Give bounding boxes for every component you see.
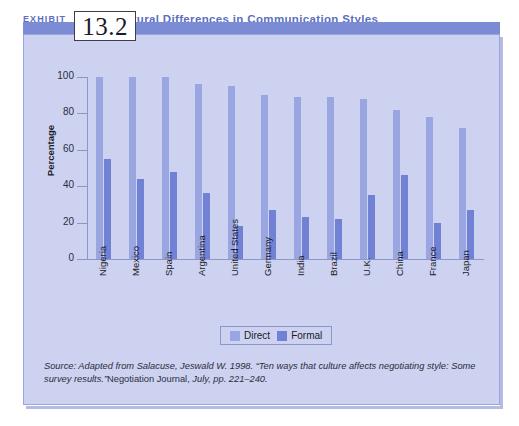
x-label-germany: Germany <box>262 237 273 276</box>
x-label-china: China <box>394 251 405 276</box>
source-journal: Negotiation Journal, <box>107 374 190 384</box>
source-line-2b: July, pp. 221–240. <box>190 374 268 384</box>
bar-direct-india <box>294 97 301 259</box>
source-note: Source: Adapted from Salacuse, Jeswald W… <box>44 360 484 385</box>
bar-formal-china <box>401 175 408 259</box>
panel-shadow-bottom <box>26 406 503 409</box>
legend-label-direct: Direct <box>244 330 270 341</box>
plot-area <box>87 77 483 259</box>
bar-direct-nigeria <box>96 77 103 259</box>
exhibit-number: 13.2 <box>75 12 135 41</box>
x-label-brazil: Brazil <box>328 252 339 276</box>
bar-direct-china <box>393 110 400 259</box>
y-tick-label-60: 60 <box>40 143 74 154</box>
source-line-1: Source: Adapted from Salacuse, Jeswald W… <box>44 361 449 371</box>
chart-panel: Percentage 020406080100 NigeriaMexicoSpa… <box>23 34 500 405</box>
legend-swatch-formal <box>277 331 287 341</box>
x-label-india: India <box>295 255 306 276</box>
bar-direct-brazil <box>327 97 334 259</box>
exhibit-number-box: 13.2 <box>74 11 136 41</box>
y-tick-label-100: 100 <box>40 70 74 81</box>
bar-direct-japan <box>459 128 466 259</box>
exhibit-figure: EXHIBIT Cultural Differences in Communic… <box>0 0 519 426</box>
x-label-nigeria: Nigeria <box>97 246 108 276</box>
legend-item-direct: Direct <box>230 330 270 341</box>
y-tick-label-0: 0 <box>40 252 74 263</box>
bar-formal-nigeria <box>104 159 111 259</box>
x-axis-line <box>87 259 484 260</box>
bar-formal-u-k- <box>368 195 375 259</box>
x-label-spain: Spain <box>163 252 174 276</box>
x-label-argentina: Argentina <box>196 235 207 276</box>
x-label-japan: Japan <box>460 250 471 276</box>
x-label-united-states: United States <box>229 219 240 276</box>
y-tick-label-20: 20 <box>40 216 74 227</box>
bar-direct-argentina <box>195 84 202 259</box>
y-tick-0 <box>77 259 88 260</box>
bar-direct-mexico <box>129 77 136 259</box>
x-label-mexico: Mexico <box>130 246 141 276</box>
bar-direct-germany <box>261 95 268 259</box>
x-label-france: France <box>427 246 438 276</box>
y-tick-label-80: 80 <box>40 106 74 117</box>
legend-swatch-direct <box>230 331 240 341</box>
bar-direct-france <box>426 117 433 259</box>
bar-formal-spain <box>170 172 177 259</box>
bar-direct-u-k- <box>360 99 367 259</box>
panel-shadow-right <box>500 37 503 409</box>
bar-formal-india <box>302 217 309 259</box>
legend-label-formal: Formal <box>291 330 322 341</box>
x-label-u-k-: U.K. <box>361 258 372 276</box>
legend-item-formal: Formal <box>277 330 322 341</box>
bar-direct-spain <box>162 77 169 259</box>
chart-legend: Direct Formal <box>220 326 332 345</box>
y-tick-label-40: 40 <box>40 179 74 190</box>
